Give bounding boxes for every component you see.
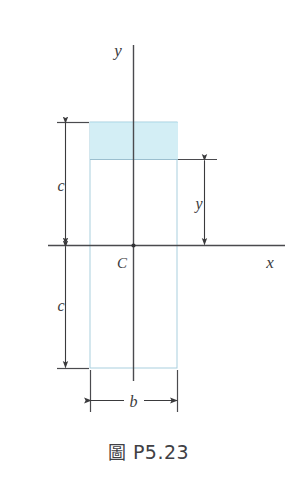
cross-section-diagram: y x C c c y b [0, 0, 297, 481]
centroid-label: C [117, 255, 128, 271]
x-axis-label: x [265, 253, 274, 272]
figure-caption-number: P5.23 [133, 441, 189, 463]
dimension-label-lower-c: c [57, 297, 64, 314]
centroid-dot [131, 243, 135, 247]
dimension-label-y-distance: y [193, 195, 203, 213]
dimension-label-width-b: b [130, 393, 138, 410]
y-axis-label: y [112, 41, 122, 60]
figure-caption-symbol: 圖 [108, 442, 127, 463]
dimension-label-upper-c: c [57, 177, 64, 194]
figure-caption: 圖 P5.23 [0, 438, 297, 464]
figure-container: y x C c c y b 圖 P5.23 [0, 0, 297, 481]
